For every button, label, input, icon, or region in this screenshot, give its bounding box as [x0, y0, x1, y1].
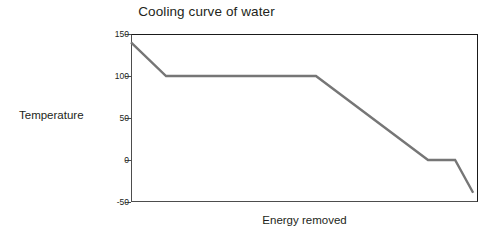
cooling-curve-line: [131, 42, 473, 192]
y-axis-tick-label: -50: [117, 198, 129, 207]
chart-title: Cooling curve of water: [0, 4, 501, 19]
y-axis-tick-label: 0: [124, 156, 129, 165]
chart-screenshot: Cooling curve of water Temperature 15010…: [0, 0, 501, 238]
x-axis-title: Energy removed: [131, 214, 478, 226]
plot-area: 150100500-50: [131, 34, 478, 202]
y-axis-tick-label: 100: [115, 72, 129, 81]
y-axis-title: Temperature: [19, 109, 84, 121]
chart-title-text: Cooling curve of water: [138, 4, 275, 19]
y-axis-tick-label: 50: [120, 114, 129, 123]
data-line-chart: [131, 34, 478, 202]
y-axis-tick-label: 150: [115, 30, 129, 39]
